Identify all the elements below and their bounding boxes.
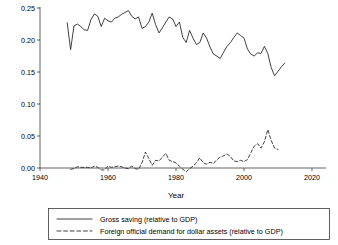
y-axis-ticks: 0.000.050.100.150.200.25 [21,4,40,173]
y-tick-label: 0.10 [21,100,35,109]
x-axis-ticks: 19401960198020002020 [32,168,320,182]
x-tick-label: 1980 [168,173,184,182]
legend-label-foreign-official-demand: Foreign official demand for dollar asset… [100,227,283,236]
y-tick-label: 0.15 [21,68,35,77]
legend-label-gross-saving: Gross saving (relative to GDP) [100,215,197,224]
x-tick-label: 2000 [236,173,252,182]
plot-area: 0.000.050.100.150.200.25 194019601980200… [21,4,326,182]
y-tick-label: 0.00 [21,164,35,173]
chart-figure: 0.000.050.100.150.200.25 194019601980200… [0,0,338,245]
line-chart: 0.000.050.100.150.200.25 194019601980200… [0,0,338,245]
y-tick-label: 0.20 [21,36,35,45]
x-tick-label: 1960 [100,173,116,182]
x-tick-label: 2020 [304,173,320,182]
chart-legend: Gross saving (relative to GDP) Foreign o… [49,209,330,240]
y-tick-label: 0.25 [21,4,35,13]
x-tick-label: 1940 [32,173,48,182]
plot-background [40,8,312,168]
x-axis-title: Year [168,191,185,200]
y-tick-label: 0.05 [21,132,35,141]
